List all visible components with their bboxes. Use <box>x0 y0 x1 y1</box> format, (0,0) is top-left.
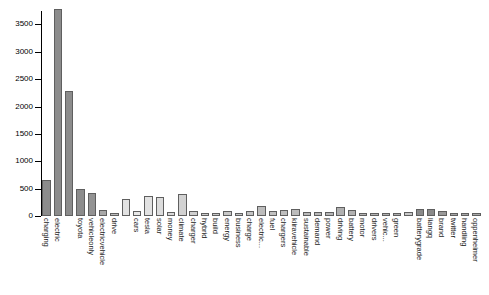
x-axis-tick-label: drive <box>110 218 118 234</box>
x-axis-tick-label: drivers <box>370 218 378 241</box>
bar <box>167 212 175 216</box>
bar <box>223 211 231 216</box>
bar <box>370 213 378 216</box>
bar <box>88 193 96 216</box>
plot-area <box>41 8 482 216</box>
bar <box>133 211 141 216</box>
bar <box>314 212 322 216</box>
y-axis-tick-label: 1500 <box>0 130 33 138</box>
bar <box>416 209 424 216</box>
bar <box>280 210 288 216</box>
y-axis-tick-label: 3000 <box>0 48 33 56</box>
x-axis-tick-label: electric <box>53 218 61 242</box>
bar <box>427 209 435 216</box>
bar <box>246 211 254 216</box>
bar <box>303 212 311 216</box>
bar <box>144 196 152 216</box>
x-axis-tick-label: charging <box>42 218 50 247</box>
y-axis-tick-label: 2000 <box>0 103 33 111</box>
x-axis-tick-label: kiiravehicle <box>291 218 299 255</box>
x-axis-tick-label: power <box>325 218 333 238</box>
x-axis-tick-label: green <box>393 218 401 237</box>
x-axis-tick-label: battery <box>347 218 355 241</box>
bar <box>235 213 243 216</box>
x-axis-tick-label: electric... <box>257 218 265 248</box>
bar <box>269 211 277 216</box>
bar <box>257 206 265 216</box>
x-axis-tick-label: driving <box>336 218 344 240</box>
bar <box>472 213 480 216</box>
x-axis-tick-label: motor <box>359 218 367 237</box>
bar <box>336 207 344 216</box>
bar <box>189 211 197 216</box>
x-axis-tick-label: brand <box>438 218 446 237</box>
bar-chart-figure: 0500100015002000250030003500 chargingele… <box>0 0 489 295</box>
x-axis-tick-label: demand <box>314 218 322 245</box>
y-axis-tick-label: 1000 <box>0 157 33 165</box>
x-axis-tick-label: charge <box>246 218 254 241</box>
x-axis-tick-label: hybrid <box>200 218 208 238</box>
x-axis-tick-label: chargers <box>280 218 288 247</box>
y-axis-tick-label: 2500 <box>0 75 33 83</box>
x-axis-tick-label: fuel <box>268 218 276 230</box>
x-axis-tick-label: oppenheimer <box>472 218 480 262</box>
bar <box>178 194 186 216</box>
x-axis-tick-label: cars <box>133 218 141 232</box>
x-axis-tick-label: build <box>212 218 220 234</box>
x-axis-tick-label: vehic... <box>381 218 389 242</box>
x-axis-tick-label: money <box>167 218 175 241</box>
x-axis-tick-label: liangq <box>427 218 435 238</box>
x-axis-tick-label: business <box>234 218 242 248</box>
y-axis-tick-label: 0 <box>0 212 33 220</box>
bar <box>122 199 130 216</box>
x-axis-tick-labels: chargingelectrictoyotavehicleonlyelectri… <box>41 218 482 295</box>
y-axis-tick-label: 3500 <box>0 20 33 28</box>
x-axis-tick-label: electricvehicle <box>99 218 107 265</box>
bar <box>325 212 333 216</box>
bar <box>438 211 446 216</box>
x-axis-tick-label: handling <box>461 218 469 246</box>
bar <box>201 213 209 216</box>
bar <box>461 213 469 216</box>
x-axis-tick-label: twitter <box>449 218 457 238</box>
bar <box>99 210 107 216</box>
x-axis-tick-label: energy <box>223 218 231 241</box>
bar <box>110 213 118 216</box>
bar <box>382 213 390 216</box>
bar <box>76 189 84 216</box>
bar <box>404 212 412 216</box>
bar <box>212 213 220 216</box>
x-axis-tick-label: toyota <box>76 218 84 238</box>
x-axis-tick-label: vehicleonly <box>87 218 95 255</box>
x-axis-tick-label: sustainable <box>302 218 310 256</box>
x-axis-tick-label: climate <box>178 218 186 242</box>
bar <box>54 9 62 216</box>
bar <box>359 213 367 216</box>
x-axis-tick-label: batterygrade <box>415 218 423 260</box>
y-axis-tick <box>35 216 41 217</box>
bar <box>348 210 356 216</box>
bar <box>393 213 401 216</box>
bar <box>291 209 299 216</box>
bar <box>156 197 164 216</box>
bar <box>42 180 50 216</box>
x-axis-tick-label: solar <box>155 218 163 234</box>
x-axis-tick-label: charger <box>189 218 197 243</box>
bars-layer <box>41 8 482 216</box>
x-axis-tick-label: tesla <box>144 218 152 234</box>
y-axis-tick-label: 500 <box>0 185 33 193</box>
bar <box>65 91 73 216</box>
bar <box>450 213 458 216</box>
